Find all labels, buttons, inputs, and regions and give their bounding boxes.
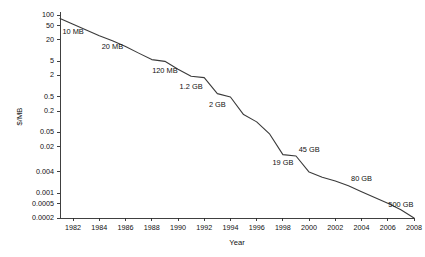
y-tick-label: 0.004 [36,167,54,176]
x-tick-label: 1982 [65,223,81,232]
y-tick-label: 20 [46,35,54,44]
annotation-label: 2 GB [209,100,226,109]
x-tick-label: 1998 [275,223,291,232]
line-chart: 1005020520.50.20.050.020.0040.0010.00050… [0,0,425,257]
x-tick-label: 1988 [144,223,160,232]
annotation-label: 19 GB [272,158,293,167]
x-tick-label: 2004 [354,223,370,232]
annotation-label: 45 GB [299,145,320,154]
x-tick-label: 1996 [249,223,265,232]
y-tick-label: 2 [50,70,54,79]
annotation-label: 10 MB [62,27,83,36]
y-tick-label: 5 [50,56,54,65]
y-tick-label: 0.2 [44,106,54,115]
y-tick-label: 0.001 [36,188,54,197]
annotation-label: 120 MB [152,66,178,75]
y-tick-label: 0.05 [40,127,54,136]
annotation-label: 80 GB [351,174,372,183]
y-tick-label: 0.0002 [32,213,54,222]
x-axis-title: Year [229,238,245,247]
x-tick-label: 1984 [91,223,107,232]
x-tick-label: 1986 [118,223,134,232]
annotation-label: 1.2 GB [180,82,203,91]
x-tick-label: 2006 [380,223,396,232]
y-tick-label: 100 [42,10,54,19]
x-tick-label: 2002 [327,223,343,232]
x-tick-label: 1990 [170,223,186,232]
x-tick-label: 2008 [406,223,422,232]
y-tick-label: 0.0005 [32,199,54,208]
annotation-label: 500 GB [388,200,413,209]
annotation-label: 20 MB [102,42,123,51]
chart-figure: 1005020520.50.20.050.020.0040.0010.00050… [0,0,425,257]
y-tick-label: 0.5 [44,92,54,101]
x-tick-label: 2000 [301,223,317,232]
y-axis-title: $/MB [15,108,24,126]
y-tick-label: 0.02 [40,142,54,151]
y-tick-label: 50 [46,21,54,30]
x-tick-label: 1992 [196,223,212,232]
x-tick-label: 1994 [222,223,238,232]
